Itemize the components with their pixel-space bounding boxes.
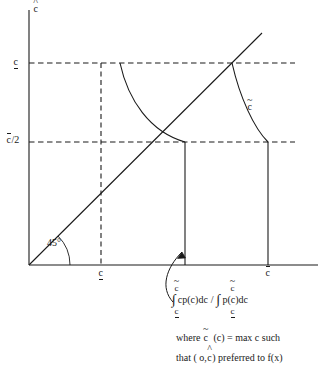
denominator-upper-limit: ~ c bbox=[230, 283, 235, 293]
where-clause-line-2: that ( o, ^ c ) preferred to f(x) bbox=[176, 351, 283, 366]
diagram-canvas bbox=[0, 0, 324, 379]
y-tick-label-cbar-half: c /2 bbox=[6, 135, 19, 145]
y-tick-label-c-under: c bbox=[13, 57, 18, 67]
c-overbar-glyph-x: c bbox=[265, 268, 270, 278]
denominator-lower-limit: c bbox=[230, 306, 235, 316]
integral-expression: ~ c c ~ c c ∫cp(c)dc/∫p(c)dc bbox=[172, 294, 248, 305]
numerator-body: cp(c)dc bbox=[178, 294, 208, 305]
curve-left-ctilde bbox=[120, 63, 185, 142]
y-axis-label: ^ c bbox=[33, 4, 38, 14]
x-tick-label-c-under: c bbox=[98, 268, 103, 278]
c-tilde-glyph: ~ c bbox=[247, 102, 252, 112]
angle-label-45deg: 45° bbox=[47, 238, 61, 248]
c-underbar-glyph-x: c bbox=[98, 268, 103, 278]
c-overbar-glyph: c bbox=[6, 135, 11, 145]
divide-two-text: /2 bbox=[11, 134, 19, 145]
where-clause-line-1: where ~ c (c) = max c such bbox=[176, 331, 280, 346]
line2-suffix: ) preferred to f(x) bbox=[212, 352, 282, 363]
c-tilde-glyph-den-upper: ~ c bbox=[230, 283, 235, 293]
c-hat-glyph-line2: ^ c bbox=[207, 351, 212, 366]
figure-root: ^ c c c /2 c c 45° ~ c ~ bbox=[0, 0, 324, 379]
curve-label-ctilde: ~ c bbox=[247, 102, 252, 112]
c-underbar-glyph-den-lower: c bbox=[230, 306, 235, 316]
fraction-divider: / bbox=[211, 294, 214, 305]
x-tick-label-cbar: c bbox=[265, 268, 270, 278]
diagonal-45-line bbox=[29, 33, 262, 265]
where-prefix: where bbox=[176, 332, 200, 343]
where-suffix: (c) = max c such bbox=[213, 332, 280, 343]
c-underbar-glyph-num-lower: c bbox=[174, 306, 179, 316]
numerator-lower-limit: c bbox=[174, 306, 179, 316]
c-tilde-glyph-where: ~ c bbox=[203, 331, 208, 346]
integral-symbol-denominator: ∫ bbox=[217, 292, 221, 307]
c-hat-glyph: ^ c bbox=[33, 4, 38, 14]
denominator-body: p(c)dc bbox=[222, 294, 248, 305]
c-underbar-glyph: c bbox=[13, 57, 18, 67]
line2-prefix: that ( o, bbox=[176, 352, 207, 363]
integral-symbol-numerator: ∫ bbox=[172, 292, 176, 307]
